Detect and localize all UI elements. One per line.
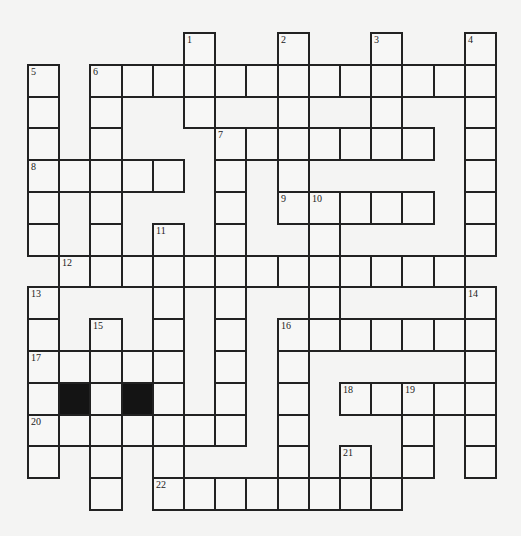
grid-cell[interactable] xyxy=(58,414,91,447)
grid-cell[interactable] xyxy=(308,127,341,161)
numbered-cell-18[interactable]: 18 xyxy=(339,382,372,416)
grid-cell[interactable] xyxy=(277,96,310,129)
grid-cell[interactable] xyxy=(89,382,123,416)
grid-cell[interactable] xyxy=(339,127,372,161)
grid-cell[interactable] xyxy=(277,350,310,384)
grid-cell[interactable] xyxy=(433,382,466,416)
numbered-cell-1[interactable]: 1 xyxy=(183,32,216,66)
grid-cell[interactable] xyxy=(89,191,123,225)
grid-cell[interactable] xyxy=(464,414,497,447)
grid-cell[interactable] xyxy=(401,64,435,98)
numbered-cell-13[interactable]: 13 xyxy=(27,286,60,320)
grid-cell[interactable] xyxy=(464,318,497,352)
grid-cell[interactable] xyxy=(89,477,123,511)
grid-cell[interactable] xyxy=(27,96,60,129)
numbered-cell-10[interactable]: 10 xyxy=(308,191,341,225)
grid-cell[interactable] xyxy=(152,414,185,447)
grid-cell[interactable] xyxy=(464,445,497,479)
grid-cell[interactable] xyxy=(401,127,435,161)
numbered-cell-21[interactable]: 21 xyxy=(339,445,372,479)
grid-cell[interactable] xyxy=(370,255,403,288)
grid-cell[interactable] xyxy=(245,64,279,98)
grid-cell[interactable] xyxy=(27,445,60,479)
grid-cell[interactable] xyxy=(152,445,185,479)
grid-cell[interactable] xyxy=(464,223,497,257)
grid-cell[interactable] xyxy=(245,255,279,288)
grid-cell[interactable] xyxy=(464,159,497,193)
grid-cell[interactable] xyxy=(277,159,310,193)
grid-cell[interactable] xyxy=(277,382,310,416)
numbered-cell-11[interactable]: 11 xyxy=(152,223,185,257)
grid-cell[interactable] xyxy=(308,477,341,511)
grid-cell[interactable] xyxy=(245,477,279,511)
grid-cell[interactable] xyxy=(183,64,216,98)
grid-cell[interactable] xyxy=(433,318,466,352)
numbered-cell-2[interactable]: 2 xyxy=(277,32,310,66)
grid-cell[interactable] xyxy=(27,223,60,257)
grid-cell[interactable] xyxy=(401,445,435,479)
grid-cell[interactable] xyxy=(27,318,60,352)
grid-cell[interactable] xyxy=(121,159,154,193)
grid-cell[interactable] xyxy=(277,477,310,511)
grid-cell[interactable] xyxy=(433,64,466,98)
grid-cell[interactable] xyxy=(214,477,247,511)
numbered-cell-17[interactable]: 17 xyxy=(27,350,60,384)
numbered-cell-14[interactable]: 14 xyxy=(464,286,497,320)
grid-cell[interactable] xyxy=(27,191,60,225)
grid-cell[interactable] xyxy=(308,223,341,257)
grid-cell[interactable] xyxy=(214,382,247,416)
grid-cell[interactable] xyxy=(89,414,123,447)
grid-cell[interactable] xyxy=(89,223,123,257)
grid-cell[interactable] xyxy=(339,477,372,511)
grid-cell[interactable] xyxy=(464,382,497,416)
numbered-cell-4[interactable]: 4 xyxy=(464,32,497,66)
grid-cell[interactable] xyxy=(339,191,372,225)
grid-cell[interactable] xyxy=(27,127,60,161)
grid-cell[interactable] xyxy=(308,286,341,320)
numbered-cell-22[interactable]: 22 xyxy=(152,477,185,511)
grid-cell[interactable] xyxy=(121,64,154,98)
grid-cell[interactable] xyxy=(277,64,310,98)
grid-cell[interactable] xyxy=(89,127,123,161)
grid-cell[interactable] xyxy=(464,191,497,225)
grid-cell[interactable] xyxy=(277,414,310,447)
grid-cell[interactable] xyxy=(152,64,185,98)
grid-cell[interactable] xyxy=(58,159,91,193)
grid-cell[interactable] xyxy=(464,96,497,129)
numbered-cell-6[interactable]: 6 xyxy=(89,64,123,98)
grid-cell[interactable] xyxy=(152,350,185,384)
grid-cell[interactable] xyxy=(214,318,247,352)
grid-cell[interactable] xyxy=(401,191,435,225)
grid-cell[interactable] xyxy=(464,64,497,98)
grid-cell[interactable] xyxy=(214,223,247,257)
grid-cell[interactable] xyxy=(27,382,60,416)
grid-cell[interactable] xyxy=(339,318,372,352)
grid-cell[interactable] xyxy=(183,96,216,129)
grid-cell[interactable] xyxy=(89,350,123,384)
numbered-cell-15[interactable]: 15 xyxy=(89,318,123,352)
grid-cell[interactable] xyxy=(245,127,279,161)
grid-cell[interactable] xyxy=(401,318,435,352)
numbered-cell-16[interactable]: 16 xyxy=(277,318,310,352)
grid-cell[interactable] xyxy=(89,445,123,479)
grid-cell[interactable] xyxy=(214,414,247,447)
grid-cell[interactable] xyxy=(370,127,403,161)
numbered-cell-19[interactable]: 19 xyxy=(401,382,435,416)
grid-cell[interactable] xyxy=(277,127,310,161)
grid-cell[interactable] xyxy=(370,477,403,511)
grid-cell[interactable] xyxy=(401,414,435,447)
grid-cell[interactable] xyxy=(183,414,216,447)
grid-cell[interactable] xyxy=(464,127,497,161)
grid-cell[interactable] xyxy=(277,255,310,288)
grid-cell[interactable] xyxy=(214,286,247,320)
grid-cell[interactable] xyxy=(433,255,466,288)
grid-cell[interactable] xyxy=(152,286,185,320)
grid-cell[interactable] xyxy=(308,255,341,288)
numbered-cell-12[interactable]: 12 xyxy=(58,255,91,288)
numbered-cell-5[interactable]: 5 xyxy=(27,64,60,98)
grid-cell[interactable] xyxy=(183,477,216,511)
grid-cell[interactable] xyxy=(308,64,341,98)
grid-cell[interactable] xyxy=(121,350,154,384)
numbered-cell-3[interactable]: 3 xyxy=(370,32,403,66)
grid-cell[interactable] xyxy=(183,255,216,288)
